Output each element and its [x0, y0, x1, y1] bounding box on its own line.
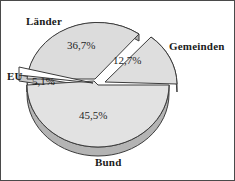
slice-label-bund: Bund — [95, 156, 122, 168]
slice-label-laender: Länder — [26, 15, 62, 27]
slice-value-laender: 36,7% — [67, 39, 95, 51]
pie-chart-svg — [1, 1, 235, 181]
chart-frame: Länder Gemeinden EU Bund 36,7% 12,7% 5,1… — [0, 0, 235, 181]
slice-value-eu: 5,1% — [32, 75, 55, 87]
slice-value-bund: 45,5% — [79, 109, 107, 121]
slice-label-eu: EU — [7, 70, 23, 82]
pie-chart: Länder Gemeinden EU Bund 36,7% 12,7% 5,1… — [1, 1, 235, 181]
slice-label-gemeinden: Gemeinden — [169, 40, 225, 52]
slice-value-gemeinden: 12,7% — [113, 54, 141, 66]
